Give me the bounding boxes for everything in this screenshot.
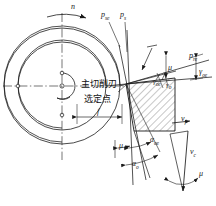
selected-point-label: 选定点 [84,95,111,104]
alpha-oe-label: αoe [150,136,159,146]
main-cutting-edge-label: 主切削刃 [81,80,117,89]
mu-top-label: μ [168,64,172,72]
plane-s-label: ps [120,11,126,21]
mu-velocity-label: μ [199,170,203,178]
feed-label: f [97,108,99,116]
gamma-oe-label: γoe [199,68,207,78]
mu-lower-label: μ [119,142,123,150]
alpha-o-label: αo [132,160,139,170]
cutting-geometry-figure: n pse ps pre γoe μ γoe γo 主切削刃 选定点 f αoe… [0,0,216,206]
plane-leader-lines [109,22,127,52]
rotation-label: n [71,3,75,11]
vf-label: vf [181,115,186,125]
plane-se-label: pse [101,11,109,21]
flank-line [134,131,150,178]
rotation-arrow [47,14,86,18]
vc-label: vc [190,148,196,158]
gamma-o-label: γo [166,82,171,91]
spiral-point-markers [16,71,64,117]
pre-indicator-arrow [142,45,157,70]
plane-re-label: pre [189,52,197,62]
feed-dimension [77,104,122,124]
gamma-oe-wedge-label: γoe [153,79,161,88]
